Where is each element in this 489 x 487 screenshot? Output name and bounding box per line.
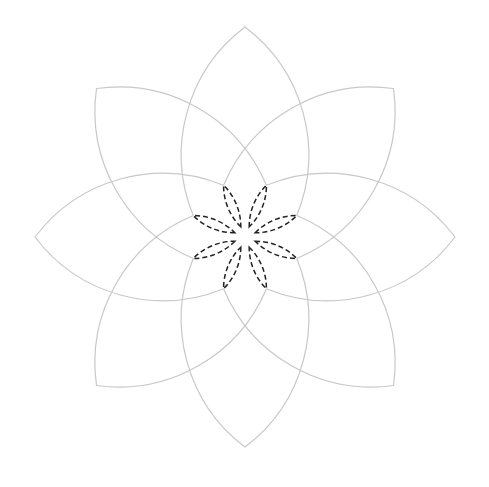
outer-petal: [35, 173, 224, 300]
outer-petal: [224, 216, 395, 387]
flower-diagram: [0, 0, 489, 487]
outer-petal: [95, 216, 266, 387]
inner-dashed-petal: [249, 247, 266, 289]
outer-petal: [266, 173, 455, 300]
inner-dashed-petal: [255, 216, 297, 233]
outer-petal: [181, 258, 308, 447]
inner-dashed-petal: [193, 216, 235, 233]
outer-petal: [181, 27, 308, 216]
inner-dashed-petal: [224, 185, 241, 227]
inner-dashed-petal: [224, 247, 241, 289]
outer-petal: [95, 87, 266, 258]
inner-dashed-rosette: [193, 185, 296, 288]
inner-dashed-petal: [255, 241, 297, 258]
inner-dashed-petal: [193, 241, 235, 258]
outer-petals: [35, 27, 455, 447]
inner-dashed-petal: [249, 185, 266, 227]
outer-petal: [224, 87, 395, 258]
